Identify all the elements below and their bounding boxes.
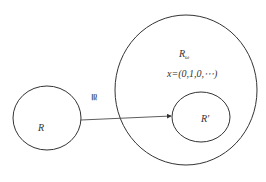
set-R-circle <box>13 86 81 150</box>
set-R-omega-circle <box>115 15 257 165</box>
isomorphism-arrow <box>81 116 171 120</box>
isomorphism-symbol: ≅ <box>89 93 99 101</box>
label-R-omega: Rω <box>179 49 189 60</box>
diagram-canvas: R Rω x=(0,1,0,⋯) R′ ≅ <box>0 0 266 182</box>
label-R-omega-subscript: ω <box>185 54 189 60</box>
label-R-prime: R′ <box>201 114 209 124</box>
diagram-svg <box>0 0 266 182</box>
label-R: R <box>38 123 44 133</box>
label-element-x: x=(0,1,0,⋯) <box>167 69 217 79</box>
